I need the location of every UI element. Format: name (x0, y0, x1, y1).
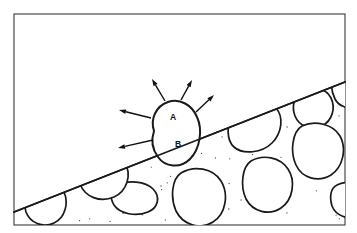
stipple-dot (280, 157, 281, 158)
stipple-dot (161, 189, 162, 190)
clast-label-a: A (170, 112, 176, 122)
stipple-dot (252, 154, 253, 155)
stipple-dot (221, 136, 222, 137)
figure-root: A B (0, 0, 357, 233)
stipple-dot (170, 176, 171, 177)
stipple-dot (89, 218, 90, 219)
stipple-dot (286, 126, 287, 127)
stipple-dot (240, 199, 241, 200)
stipple-dot (109, 221, 110, 222)
clast-outline (173, 169, 226, 226)
stipple-dot (160, 185, 161, 186)
stipple-dot (167, 182, 168, 183)
stipple-dot (339, 218, 340, 219)
clast-label-b: B (175, 139, 181, 149)
stipple-dot (201, 153, 202, 154)
stipple-dot (79, 220, 80, 221)
clast-outline (243, 157, 293, 212)
central-clast (152, 101, 200, 166)
stipple-dot (228, 183, 229, 184)
geology-clast-diagram: A B (0, 0, 357, 233)
stipple-dot (228, 208, 229, 209)
stipple-dot (338, 115, 339, 116)
stipple-dot (335, 214, 336, 215)
stipple-dot (215, 157, 216, 158)
stipple-dot (229, 158, 230, 159)
clast-outline (293, 123, 344, 179)
stipple-dot (165, 219, 166, 220)
stipple-dot (151, 166, 152, 167)
stipple-dot (286, 212, 287, 213)
stipple-dot (316, 190, 317, 191)
